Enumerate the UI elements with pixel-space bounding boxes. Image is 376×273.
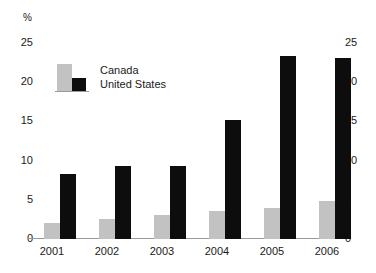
legend-label-united-states: United States bbox=[100, 77, 166, 91]
x-axis-label-2005: 2005 bbox=[248, 245, 296, 257]
legend-label-canada: Canada bbox=[100, 63, 166, 77]
bar-canada-2001 bbox=[44, 223, 60, 239]
y-axis-left-tick-25: 25 bbox=[21, 37, 33, 48]
x-axis-label-2002: 2002 bbox=[83, 245, 131, 257]
bar-canada-2005 bbox=[264, 208, 280, 239]
legend-swatch-canada bbox=[57, 64, 72, 91]
y-axis-unit-label: % bbox=[23, 12, 32, 23]
x-axis-label-2003: 2003 bbox=[138, 245, 186, 257]
bar-canada-2002 bbox=[99, 219, 115, 239]
legend-baseline bbox=[55, 91, 89, 92]
bar-united-states-2006 bbox=[335, 58, 351, 239]
x-axis-label-2006: 2006 bbox=[303, 245, 351, 257]
bar-united-states-2004 bbox=[225, 120, 241, 239]
y-axis-left-tick-15: 15 bbox=[21, 115, 33, 126]
bar-united-states-2005 bbox=[280, 56, 296, 239]
legend-swatch-group bbox=[55, 63, 89, 93]
y-axis-right-tick-25: 25 bbox=[345, 37, 357, 48]
bar-canada-2003 bbox=[154, 215, 170, 239]
bar-united-states-2002 bbox=[115, 166, 131, 239]
y-axis-left-tick-10: 10 bbox=[21, 155, 33, 166]
grouped-bar-chart: % 25 20 15 10 5 0 25 20 15 10 5 0 2001 2… bbox=[0, 0, 376, 273]
bar-united-states-2003 bbox=[170, 166, 186, 239]
bar-canada-2004 bbox=[209, 211, 225, 239]
bar-united-states-2001 bbox=[60, 174, 76, 239]
legend-swatch-united-states bbox=[72, 78, 86, 91]
legend: Canada United States bbox=[55, 63, 190, 96]
legend-label-group: Canada United States bbox=[100, 63, 166, 91]
x-axis-label-2004: 2004 bbox=[193, 245, 241, 257]
bar-canada-2006 bbox=[319, 201, 335, 239]
x-axis-label-2001: 2001 bbox=[28, 245, 76, 257]
y-axis-left-tick-20: 20 bbox=[21, 76, 33, 87]
